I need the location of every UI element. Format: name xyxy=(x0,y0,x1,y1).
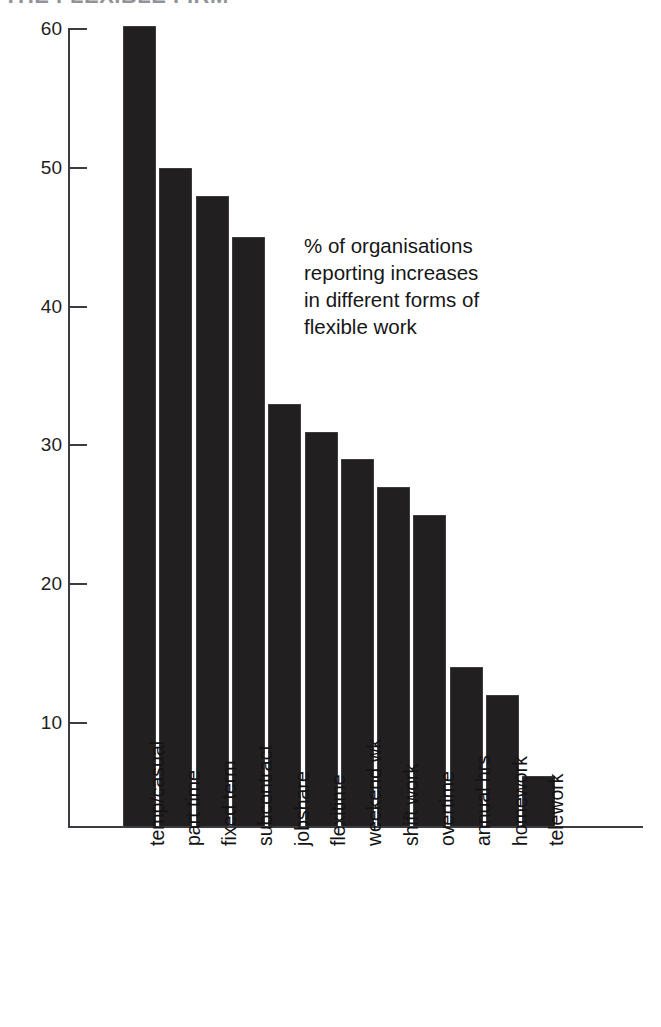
x-category-label: jobshare xyxy=(293,771,313,846)
x-category-label: shift work xyxy=(402,764,422,846)
y-tick-40 xyxy=(70,306,87,308)
x-category-label: temp/casual xyxy=(148,741,168,846)
bar xyxy=(159,168,192,827)
x-category-label: part time xyxy=(184,770,204,846)
y-tick-label-20: 20 xyxy=(18,574,62,593)
y-tick-20 xyxy=(70,583,87,585)
y-tick-label-wrap-40: 40 xyxy=(10,297,62,316)
x-category-label: fixed term xyxy=(220,760,240,846)
chart-annotation: % of organisations reporting increases i… xyxy=(304,232,564,340)
x-category-label: annual hrs xyxy=(474,755,494,846)
y-tick-10 xyxy=(70,722,87,724)
annotation-line-2: reporting increases xyxy=(304,259,564,286)
annotation-line-4: flexible work xyxy=(304,313,564,340)
y-tick-label-wrap-50: 50 xyxy=(10,158,62,177)
y-tick-label-10: 10 xyxy=(18,713,62,732)
y-tick-label-30: 30 xyxy=(18,435,62,454)
x-category-label: telework xyxy=(547,773,567,846)
y-tick-label-wrap-20: 20 xyxy=(10,574,62,593)
y-tick-label-40: 40 xyxy=(18,297,62,316)
y-tick-label-wrap-10: 10 xyxy=(10,713,62,732)
y-axis-line xyxy=(68,28,70,828)
y-tick-label-50: 50 xyxy=(18,158,62,177)
bar-chart-plot: 102030405060 temp/casualpart timefixed t… xyxy=(0,0,661,1027)
x-category-label: flexitime xyxy=(329,774,349,846)
x-category-label: homework xyxy=(511,756,531,846)
x-category-label: overtime xyxy=(438,771,458,846)
x-category-label: weekend wk xyxy=(365,739,385,846)
y-tick-label-wrap-30: 30 xyxy=(10,435,62,454)
annotation-line-1: % of organisations xyxy=(304,232,564,259)
bar xyxy=(232,237,265,827)
y-tick-60 xyxy=(70,28,87,30)
y-tick-50 xyxy=(70,167,87,169)
x-category-label: subcontract xyxy=(256,745,276,846)
y-tick-30 xyxy=(70,444,87,446)
bar xyxy=(123,26,156,827)
chart-page: THE FLEXIBLE FIRM 102030405060 temp/casu… xyxy=(0,0,661,1027)
bar xyxy=(305,432,338,827)
bar xyxy=(196,196,229,827)
y-tick-label-wrap-60: 60 xyxy=(10,19,62,38)
annotation-line-3: in different forms of xyxy=(304,286,564,313)
y-tick-label-60: 60 xyxy=(18,19,62,38)
